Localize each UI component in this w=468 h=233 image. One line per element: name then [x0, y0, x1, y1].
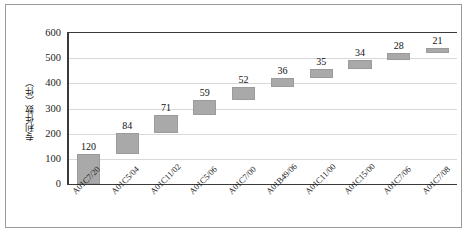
bar — [232, 87, 255, 100]
bar — [426, 48, 449, 53]
bar-value-label: 28 — [394, 40, 404, 51]
bar-value-label: 21 — [433, 35, 443, 46]
bar-value-label: 120 — [81, 141, 96, 152]
chart-frame: 专利件数（件） 6005004003002001000 120847159523… — [5, 4, 462, 228]
bar — [116, 133, 139, 154]
bar-value-label: 59 — [200, 87, 210, 98]
y-tick-label: 500 — [36, 52, 61, 63]
bar-value-label: 36 — [277, 65, 287, 76]
bar — [193, 100, 216, 115]
bar-value-label: 35 — [316, 56, 326, 67]
y-tick-label: 600 — [36, 27, 61, 38]
y-tick-label: 100 — [36, 152, 61, 163]
bar — [348, 60, 371, 69]
bar — [271, 78, 294, 87]
bar-value-label: 52 — [239, 74, 249, 85]
bar — [310, 69, 333, 78]
bar-value-label: 34 — [355, 47, 365, 58]
bar — [387, 53, 410, 60]
y-tick-label: 0 — [36, 178, 61, 189]
bar-value-label: 84 — [122, 120, 132, 131]
y-tick-label: 200 — [36, 127, 61, 138]
bar-series: 120847159523635342821 — [69, 33, 457, 184]
y-tick-label: 400 — [36, 77, 61, 88]
bar-value-label: 71 — [161, 102, 171, 113]
y-tick-label: 300 — [36, 102, 61, 113]
y-axis-tick-labels: 6005004003002001000 — [36, 5, 61, 233]
plot-area: 120847159523635342821 — [67, 32, 457, 185]
bar — [154, 115, 177, 133]
x-axis-tick-labels: A01C7/20A01C5/04A01C11/02A01C5/06A01C7/0… — [67, 185, 455, 233]
